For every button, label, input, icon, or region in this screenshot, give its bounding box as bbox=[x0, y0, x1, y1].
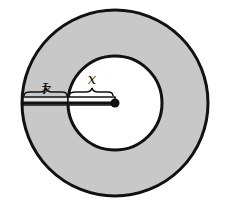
label-inner-radius: x bbox=[88, 70, 97, 88]
center-point bbox=[111, 99, 120, 108]
label-ring-width: 4 bbox=[41, 79, 52, 97]
annulus-diagram: 4 x bbox=[0, 0, 226, 212]
